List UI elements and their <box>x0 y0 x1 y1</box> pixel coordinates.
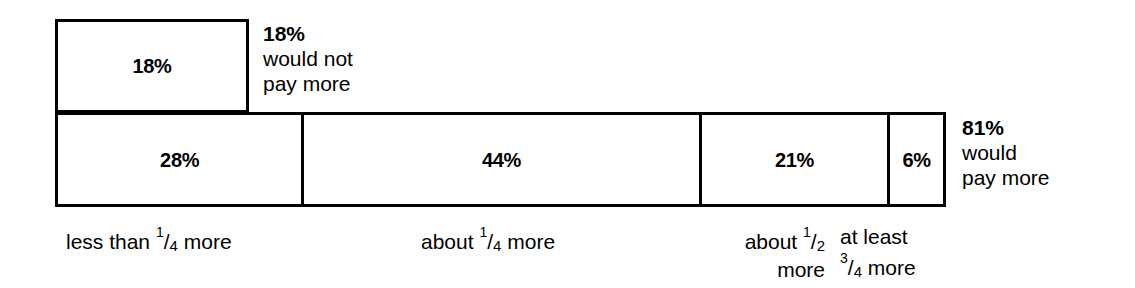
bar-segment-would-not-pay: 18% <box>58 22 246 110</box>
bar-segment-value: 21% <box>775 150 814 170</box>
axis-label-less-than-quarter: less than 1/4 more <box>66 224 232 257</box>
axis-label-line-1: less than 1/4 more <box>66 224 232 257</box>
fraction-one-quarter: 1/4 <box>156 224 178 257</box>
axis-label-text-pre: less than <box>66 230 156 253</box>
fraction-solidus: / <box>811 230 817 253</box>
bar-row-would-pay: 28% 44% 21% 6% <box>55 112 946 207</box>
fraction-numerator: 1 <box>803 224 811 240</box>
bar-segment-value: 6% <box>903 150 931 170</box>
fraction-numerator: 1 <box>156 224 164 240</box>
axis-label-about-quarter: about 1/4 more <box>421 224 555 257</box>
fraction-numerator: 1 <box>479 224 487 240</box>
fraction-three-quarters: 3/4 <box>840 250 862 283</box>
callout-line-1: would not <box>263 46 353 71</box>
fraction-one-half: 1/2 <box>803 224 825 257</box>
axis-label-line-2: 3/4 more <box>840 250 916 283</box>
axis-label-text-pre: about <box>745 230 803 253</box>
bar-segment-about-quarter: 44% <box>301 115 698 204</box>
fraction-one-quarter: 1/4 <box>479 224 501 257</box>
fraction-denominator: 4 <box>854 263 862 280</box>
callout-percent: 18% <box>263 21 353 46</box>
fraction-solidus: / <box>164 230 170 253</box>
axis-label-text-post: more <box>862 256 916 279</box>
axis-label-at-least-three-quarters: at least 3/4 more <box>840 224 916 283</box>
callout-would-not-pay: 18% would not pay more <box>263 21 353 96</box>
bar-segment-less-than-quarter: 28% <box>58 115 301 204</box>
segmented-bar-chart: 18% 18% would not pay more 28% 44% 21% 6… <box>0 0 1135 288</box>
callout-percent: 81% <box>962 115 1050 140</box>
bar-segment-value: 18% <box>132 56 171 76</box>
bar-row-would-not-pay: 18% <box>55 19 249 113</box>
bar-segment-at-least-three-quarters: 6% <box>887 115 943 204</box>
callout-line-2: pay more <box>263 71 353 96</box>
axis-label-line-1: at least <box>840 224 916 250</box>
callout-would-pay: 81% would pay more <box>962 115 1050 190</box>
axis-label-text-post: more <box>178 230 232 253</box>
axis-label-text-post: more <box>501 230 555 253</box>
axis-label-about-half: about 1/2 more <box>700 224 825 283</box>
fraction-denominator: 4 <box>493 237 501 254</box>
fraction-solidus: / <box>848 256 854 279</box>
axis-label-line-2: more <box>700 257 825 283</box>
callout-line-1: would <box>962 140 1050 165</box>
bar-segment-value: 44% <box>482 150 521 170</box>
callout-line-2: pay more <box>962 165 1050 190</box>
axis-label-text-pre: about <box>421 230 479 253</box>
fraction-denominator: 4 <box>170 237 178 254</box>
axis-label-line-1: about 1/4 more <box>421 224 555 257</box>
fraction-numerator: 3 <box>840 250 848 266</box>
fraction-denominator: 2 <box>817 237 825 254</box>
bar-segment-about-half: 21% <box>699 115 888 204</box>
bar-segment-value: 28% <box>160 150 199 170</box>
axis-label-line-1: about 1/2 <box>700 224 825 257</box>
